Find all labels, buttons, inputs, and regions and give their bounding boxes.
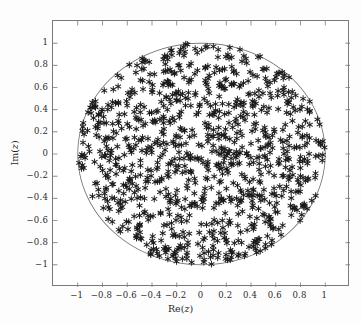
y-tick-label: 0.4	[34, 104, 48, 114]
x-tick-label: 0	[198, 290, 204, 300]
scatter-plot-canvas	[53, 21, 350, 287]
y-tick-label: −0.2	[27, 170, 48, 180]
x-axis-title: Re(z)	[0, 303, 361, 314]
x-tick-label: 1	[321, 290, 327, 300]
y-tick-label: −0.4	[27, 192, 48, 202]
x-tick-label: −0.6	[116, 290, 137, 300]
x-tick-label: −1	[70, 290, 83, 300]
x-axis-title-suffix: )	[189, 303, 193, 314]
y-tick-label: 0.6	[34, 82, 48, 92]
y-tick-label: 1	[42, 37, 48, 47]
y-axis-title-variable: z	[9, 144, 20, 149]
y-tick-label: −1	[35, 259, 48, 269]
x-tick-label: 0.6	[268, 290, 282, 300]
y-tick-label: −0.8	[27, 237, 48, 247]
x-tick-label: −0.2	[165, 290, 186, 300]
x-axis-title-prefix: Re(	[168, 303, 184, 314]
y-axis-title: Im(z)	[9, 140, 20, 165]
figure: −1−0.8−0.6−0.4−0.200.20.40.60.81 10.80.6…	[0, 0, 361, 325]
x-tick-label: 0.4	[243, 290, 257, 300]
y-tick-label: 0.8	[34, 59, 48, 69]
x-tick-label: −0.8	[91, 290, 112, 300]
y-tick-label: −0.6	[27, 215, 48, 225]
x-tick-label: 0.8	[292, 290, 306, 300]
y-tick-label: 0	[42, 148, 48, 158]
x-tick-label: −0.4	[140, 290, 161, 300]
plot-area	[52, 20, 349, 286]
y-tick-label: 0.2	[34, 126, 48, 136]
y-axis-title-suffix: )	[9, 140, 20, 144]
y-axis-title-prefix: Im(	[9, 149, 20, 165]
x-tick-label: 0.2	[218, 290, 232, 300]
